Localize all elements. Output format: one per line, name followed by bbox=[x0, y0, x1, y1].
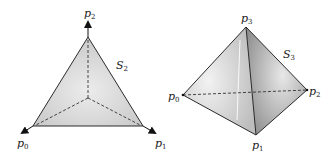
label-p2-right: p2 bbox=[309, 85, 321, 99]
label-p2-left: p2 bbox=[84, 7, 96, 21]
label-s3: S3 bbox=[283, 48, 295, 62]
arrow-p1 bbox=[143, 126, 155, 133]
arrow-p0 bbox=[22, 126, 33, 133]
label-p0-left: p0 bbox=[17, 137, 29, 151]
simplex-s3: p3 p0 p2 p1 S3 bbox=[168, 12, 321, 153]
label-p1-right: p1 bbox=[252, 139, 264, 153]
simplex-s2: p2 p0 p1 S2 bbox=[17, 7, 167, 151]
label-s2: S2 bbox=[116, 59, 128, 73]
s3-front-face bbox=[183, 27, 256, 135]
diagram-canvas: p2 p0 p1 S2 p3 p0 p2 p1 S3 bbox=[0, 0, 328, 156]
label-p3-right: p3 bbox=[241, 12, 253, 26]
label-p1-left: p1 bbox=[155, 137, 167, 151]
label-p0-right: p0 bbox=[168, 90, 180, 104]
